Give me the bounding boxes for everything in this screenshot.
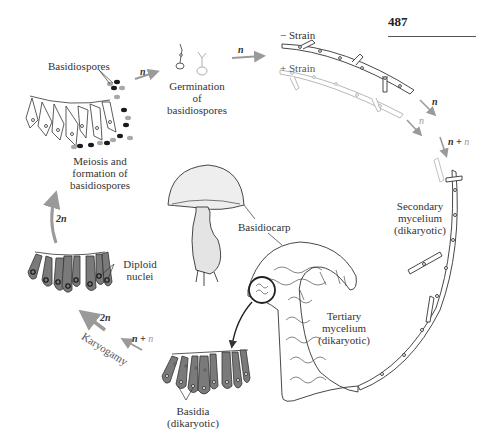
meiosis-basidia xyxy=(26,96,116,146)
magnified-gill-circle xyxy=(249,277,275,303)
label-secondary-mycelium: Secondary mycelium (dikaryotic) xyxy=(388,200,452,236)
ploidy-diploid: 2n xyxy=(56,213,67,224)
ploidy-minus-strain: n xyxy=(432,96,438,107)
ploidy-fusion: n + n xyxy=(448,136,469,147)
ploidy-plus-strain: n xyxy=(419,115,424,126)
label-basidia: Basidia (dikaryotic) xyxy=(166,405,220,429)
label-minus-strain: − Strain xyxy=(280,29,315,41)
arrow-plasmogamy xyxy=(440,137,446,155)
label-meiosis: Meiosis and formation of basidiospores xyxy=(60,155,140,191)
ploidy-germination: n xyxy=(238,44,244,55)
label-tertiary-mycelium: Tertiary mycelium (dikaryotic) xyxy=(312,310,376,346)
label-germination: Germination of basidiospores xyxy=(164,80,230,116)
arrow-germination-to-strains xyxy=(232,56,262,58)
magnify-arrow xyxy=(232,302,252,346)
ploidy-karyogamy-out: 2n xyxy=(100,312,111,323)
germinating-spores xyxy=(176,44,207,75)
label-basidiospores: Basidiospores xyxy=(48,60,110,72)
basidiocarp-pointer-1 xyxy=(244,205,255,219)
label-diploid-nuclei: Diploid nuclei xyxy=(120,258,160,282)
plasmogamy-fusion xyxy=(434,158,444,182)
dikaryotic-basidia xyxy=(162,350,250,394)
mushroom-basidiocarp xyxy=(168,165,244,286)
ploidy-karyogamy-in: n + n xyxy=(132,333,153,344)
label-plus-strain: + Strain xyxy=(280,62,315,74)
basidiocarp-pointer-2 xyxy=(268,233,282,245)
ploidy-after-spores: n xyxy=(140,66,146,77)
label-basidiocarp: Basidiocarp xyxy=(238,221,291,233)
diploid-basidia xyxy=(28,252,112,292)
